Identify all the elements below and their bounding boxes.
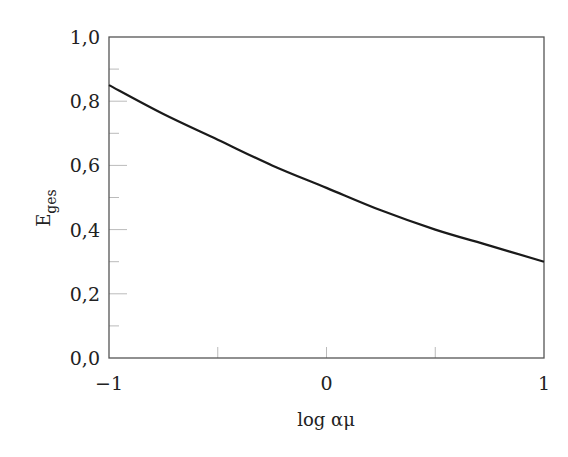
plot-frame (109, 37, 544, 358)
y-tick-label: 1,0 (70, 26, 100, 48)
svg-text:Eges: Eges (33, 189, 59, 227)
y-axis-label-subscript: ges (43, 189, 59, 213)
y-tick-label: 0,8 (70, 90, 100, 112)
x-tick-label: 0 (320, 372, 332, 394)
x-axis-tick-labels: −101 (95, 372, 550, 394)
y-tick-label: 0,6 (70, 154, 100, 176)
x-tick-label: −1 (95, 372, 123, 394)
data-line (109, 85, 544, 262)
y-tick-label: 0,2 (70, 283, 100, 305)
y-axis-label: Eges (33, 189, 59, 227)
line-chart: 0,00,20,40,60,81,0 −101 log αμ Eges (0, 0, 568, 457)
y-tick-label: 0,4 (70, 219, 100, 241)
x-tick-label: 1 (538, 372, 550, 394)
y-tick-label: 0,0 (70, 347, 100, 369)
x-axis-label: log αμ (297, 409, 355, 430)
y-axis-tick-labels: 0,00,20,40,60,81,0 (70, 26, 100, 369)
